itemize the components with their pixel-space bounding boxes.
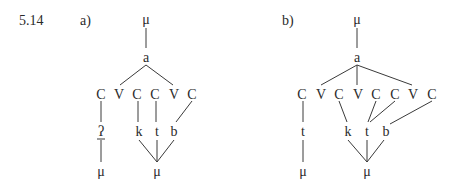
panel-a: a) μ a C V C C V C ʔ k t b μ μ	[80, 12, 197, 179]
skeleton-slot: C	[427, 87, 436, 102]
bottom-mora: μ	[97, 164, 105, 179]
skeleton-slot: V	[316, 87, 326, 102]
panel-b-label: b)	[282, 13, 294, 29]
edge-C4-b	[176, 101, 192, 122]
panel-a-label: a)	[80, 13, 91, 29]
edge-C2-k	[339, 101, 347, 122]
skeleton-slot: C	[132, 87, 141, 102]
skeleton-slot: C	[334, 87, 343, 102]
segment-b: b	[383, 124, 390, 139]
vowel-node: a	[143, 50, 150, 65]
edge-b-mora	[367, 140, 384, 162]
edge-a-V3	[357, 65, 412, 85]
top-mora: μ	[353, 12, 361, 27]
skeleton-slot: V	[353, 87, 363, 102]
segment-t: t	[155, 124, 159, 139]
vowel-node: a	[354, 50, 361, 65]
edge-C5-b	[390, 101, 432, 124]
skeleton-slot: V	[169, 87, 179, 102]
skeleton-slot: V	[114, 87, 124, 102]
skeleton-slot: C	[187, 87, 196, 102]
edge-C3-t	[368, 101, 376, 122]
bottom-mora: μ	[363, 164, 371, 179]
prosodic-tree-diagram: 5.14 a) μ a C V C C V C ʔ k t b μ μ b)	[0, 0, 449, 192]
segment-t: t	[365, 124, 369, 139]
edge-k-mora	[139, 140, 157, 162]
segment-k: k	[136, 124, 143, 139]
example-number: 5.14	[19, 13, 44, 28]
edge-C4-t	[370, 101, 395, 122]
bottom-mora: μ	[299, 164, 307, 179]
skeleton-slot: C	[371, 87, 380, 102]
edge-a-V1	[120, 65, 146, 85]
skeleton-slot: C	[390, 87, 399, 102]
segment-glottal-stop: ʔ	[98, 124, 104, 139]
skeleton-slot: V	[408, 87, 418, 102]
edge-a-V2	[146, 65, 173, 85]
panel-b: b) μ a C V C V C C V C t k t b μ μ	[282, 12, 437, 179]
segment-k: k	[345, 124, 352, 139]
segment-t: t	[301, 124, 305, 139]
edge-b-mora	[157, 140, 174, 162]
skeleton-slot: C	[297, 87, 306, 102]
edge-a-V1	[321, 65, 357, 85]
top-mora: μ	[142, 12, 150, 27]
skeleton-slot: C	[96, 87, 105, 102]
edge-k-mora	[348, 140, 367, 162]
bottom-mora: μ	[153, 164, 161, 179]
skeleton-slot: C	[150, 87, 159, 102]
segment-b: b	[171, 124, 178, 139]
